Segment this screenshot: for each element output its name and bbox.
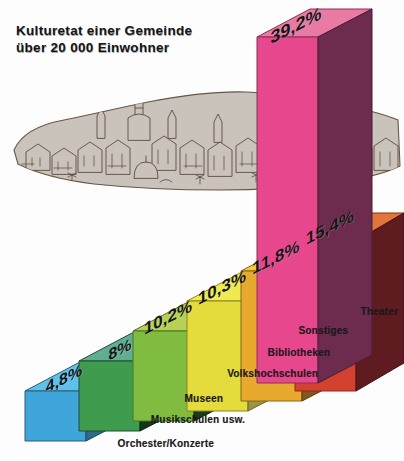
- category-label-bibliotheken: Bibliotheken: [268, 347, 330, 358]
- title-line-1: Kulturetat einer Gemeinde: [16, 22, 192, 39]
- title-line-2: über 20 000 Einwohner: [16, 39, 192, 56]
- category-label-volkshochschulen: Volkshochschulen: [227, 368, 318, 379]
- bar-left-face: [25, 391, 86, 441]
- bar-left-face: [79, 361, 140, 431]
- category-label-theater: Theater: [360, 306, 398, 317]
- category-label-sonstiges: Sonstiges: [298, 325, 348, 336]
- category-label-orchester: Orchester/Konzerte: [118, 438, 214, 449]
- infographic-canvas: Kulturetat einer Gemeinde über 20 000 Ei…: [0, 0, 404, 461]
- bar-left-face: [133, 331, 194, 421]
- page-title: Kulturetat einer Gemeinde über 20 000 Ei…: [16, 22, 192, 57]
- category-label-museen: Museen: [185, 393, 223, 404]
- category-label-musikschulen: Musikschulen usw.: [151, 414, 245, 425]
